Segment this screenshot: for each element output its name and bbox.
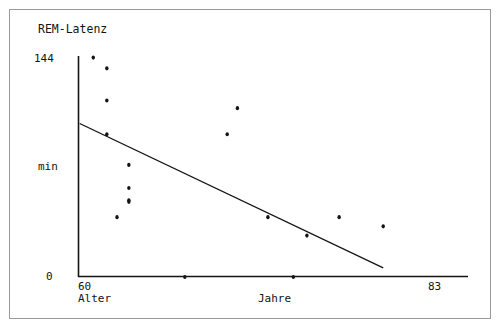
regression-line-path (80, 124, 384, 268)
data-point (115, 215, 118, 219)
data-point (337, 215, 340, 219)
screenshot-root: REM-Latenz 144 0 min 60 Alter 83 Jahre (0, 0, 500, 336)
data-point (127, 163, 130, 167)
data-point (105, 66, 108, 70)
data-point (292, 275, 295, 279)
data-point (105, 132, 108, 136)
data-point (127, 186, 130, 190)
chart-canvas (0, 0, 500, 336)
data-point (382, 224, 385, 228)
data-point (236, 106, 239, 110)
data-point (305, 233, 308, 237)
data-point-series (92, 55, 385, 279)
scatter-plot-figure: REM-Latenz 144 0 min 60 Alter 83 Jahre (0, 0, 500, 336)
data-point (226, 132, 229, 136)
data-point (127, 200, 130, 204)
data-point (92, 55, 95, 59)
data-point (266, 215, 269, 219)
data-point (183, 275, 186, 279)
regression-line (80, 124, 384, 268)
data-point (105, 98, 108, 102)
axis-lines (78, 56, 468, 277)
